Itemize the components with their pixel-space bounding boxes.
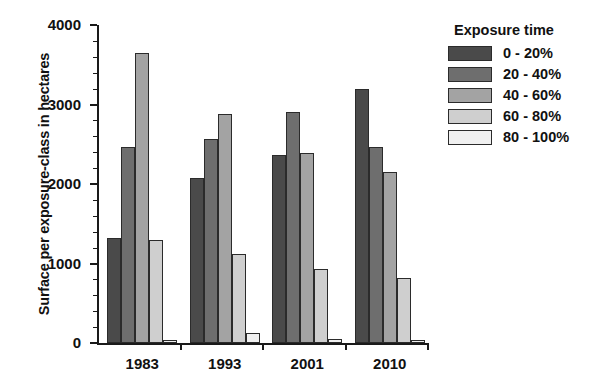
y-tick-minor <box>93 295 97 296</box>
y-tick-minor <box>93 152 97 153</box>
bar <box>369 147 383 343</box>
bar-group <box>190 25 260 343</box>
y-tick-minor <box>93 327 97 328</box>
legend-item[interactable]: 40 - 60% <box>448 87 598 103</box>
bar <box>411 340 425 343</box>
x-axis-category-label: 1983 <box>126 355 159 372</box>
bar <box>149 240 163 343</box>
y-tick-major: 2000 <box>90 183 97 185</box>
y-tick-minor <box>93 89 97 90</box>
y-tick-minor <box>93 311 97 312</box>
y-axis-line <box>97 25 99 343</box>
bar <box>300 153 314 343</box>
y-tick-minor <box>93 41 97 42</box>
bar <box>397 278 411 343</box>
legend-swatch <box>448 88 492 103</box>
bar <box>190 178 204 343</box>
y-tick-label: 2000 <box>48 175 81 192</box>
y-tick-major: 1000 <box>90 263 97 265</box>
legend-item[interactable]: 60 - 80% <box>448 108 598 124</box>
legend-items: 0 - 20%20 - 40%40 - 60%60 - 80%80 - 100% <box>448 45 598 145</box>
y-tick-label: 0 <box>73 334 81 351</box>
bar <box>328 339 342 343</box>
legend-swatch <box>448 67 492 82</box>
y-tick-minor <box>93 200 97 201</box>
y-tick-minor <box>93 120 97 121</box>
legend-swatch <box>448 130 492 145</box>
bar <box>163 340 177 343</box>
y-tick-major: 3000 <box>90 104 97 106</box>
bar <box>121 147 135 343</box>
y-tick-label: 3000 <box>48 95 81 112</box>
x-axis-category-label: 2010 <box>373 355 406 372</box>
y-tick-minor <box>93 73 97 74</box>
plot-area: 01000200030004000 1983199320012010 <box>97 25 427 343</box>
y-tick-minor <box>93 168 97 169</box>
bar-group <box>107 25 177 343</box>
x-axis-category-label: 1993 <box>208 355 241 372</box>
y-tick-label: 1000 <box>48 254 81 271</box>
bar-chart: Surface per exposure-class in hectares 0… <box>0 0 605 387</box>
bar <box>272 155 286 343</box>
x-tick <box>262 343 264 350</box>
bar <box>232 254 246 343</box>
x-axis-category-label: 2001 <box>291 355 324 372</box>
legend-label: 0 - 20% <box>503 45 553 61</box>
legend-item[interactable]: 20 - 40% <box>448 66 598 82</box>
y-tick-minor <box>93 57 97 58</box>
legend-label: 40 - 60% <box>503 87 561 103</box>
bar <box>218 114 232 343</box>
bar <box>246 333 260 343</box>
y-tick-label: 4000 <box>48 16 81 33</box>
legend-swatch <box>448 109 492 124</box>
legend-swatch <box>448 46 492 61</box>
bar <box>135 53 149 343</box>
y-tick-major: 0 <box>90 342 97 344</box>
bar <box>314 269 328 343</box>
y-tick-major: 4000 <box>90 24 97 26</box>
x-tick <box>180 343 182 350</box>
x-tick <box>427 343 429 350</box>
bar <box>355 89 369 343</box>
bar <box>286 112 300 343</box>
bar-group <box>355 25 425 343</box>
legend-item[interactable]: 80 - 100% <box>448 129 598 145</box>
y-tick-minor <box>93 248 97 249</box>
legend-item[interactable]: 0 - 20% <box>448 45 598 61</box>
bar-group <box>272 25 342 343</box>
legend: Exposure time 0 - 20%20 - 40%40 - 60%60 … <box>448 22 598 150</box>
y-tick-minor <box>93 216 97 217</box>
y-tick-minor <box>93 136 97 137</box>
x-tick <box>345 343 347 350</box>
legend-label: 20 - 40% <box>503 66 561 82</box>
legend-label: 80 - 100% <box>503 129 569 145</box>
y-tick-minor <box>93 279 97 280</box>
bar <box>107 238 121 343</box>
bar <box>204 139 218 343</box>
bar <box>383 172 397 343</box>
legend-title: Exposure time <box>454 22 598 38</box>
y-tick-minor <box>93 232 97 233</box>
legend-label: 60 - 80% <box>503 108 561 124</box>
